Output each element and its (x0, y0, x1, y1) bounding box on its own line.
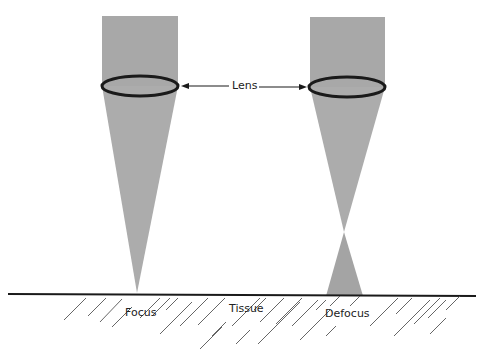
focused-beam (102, 16, 178, 293)
laser-focus-diagram: Lens Focus Tissue Defocus (0, 0, 491, 349)
lens-label: Lens (232, 80, 257, 91)
diagram-canvas (0, 0, 491, 349)
defocused-beam (310, 17, 385, 296)
defocus-label: Defocus (325, 308, 370, 319)
tissue-label: Tissue (229, 303, 264, 314)
tissue-surface-line (8, 294, 476, 296)
focus-label: Focus (125, 307, 156, 318)
